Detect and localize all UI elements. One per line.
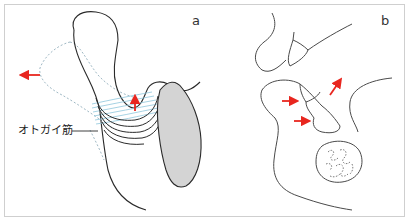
dotted-chin-line: [90, 130, 104, 160]
lower-lip-outline: [261, 80, 352, 210]
dotted-lip-outline: [40, 42, 112, 128]
tongue-outline: [350, 78, 392, 132]
panel-label-a: a: [192, 14, 200, 27]
mentalis-muscle-label: オトガイ筋: [18, 125, 73, 136]
arrow-up-right-icon: [330, 82, 339, 95]
upper-tooth: [288, 32, 308, 66]
panel-label-b: b: [381, 14, 389, 27]
panel-a-drawing: [24, 12, 201, 210]
dotted-lip-outline-inner: [70, 42, 138, 98]
mandible-bone: [157, 82, 201, 187]
hyoid-bone: [316, 141, 362, 182]
bone-marrow-texture: [326, 150, 353, 177]
panel-b-drawing: [255, 13, 392, 210]
mentalis-fibers: [92, 92, 158, 124]
upper-lip-outline: [255, 13, 286, 71]
mentalis-contours: [96, 96, 162, 144]
lower-tooth: [300, 84, 340, 133]
diagram-canvas: [0, 0, 410, 223]
upper-palate-line: [308, 24, 352, 50]
